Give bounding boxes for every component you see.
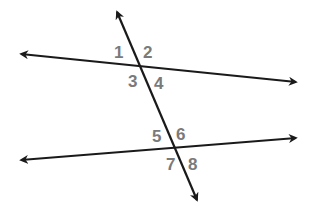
angle-label-5: 5 <box>152 127 161 146</box>
angle-label-4: 4 <box>154 74 164 93</box>
angle-label-3: 3 <box>128 72 137 91</box>
angle-label-6: 6 <box>176 125 185 144</box>
diagram-canvas: 12345678 <box>0 0 314 206</box>
angle-label-1: 1 <box>114 43 123 62</box>
angle-label-2: 2 <box>143 43 152 62</box>
transversal-diagram: 12345678 <box>0 0 314 206</box>
angle-label-8: 8 <box>188 155 197 174</box>
transversal <box>117 12 197 200</box>
angle-label-7: 7 <box>166 155 175 174</box>
